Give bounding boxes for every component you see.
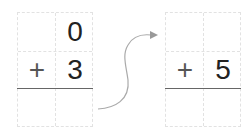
curved-arrow-icon bbox=[0, 0, 250, 134]
